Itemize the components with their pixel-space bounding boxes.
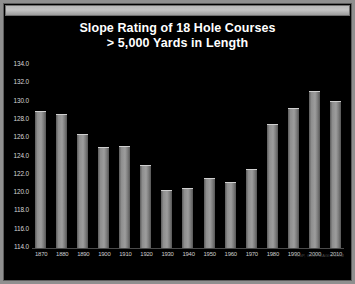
chart-subtitle: > 5,000 Yards in Length	[5, 36, 350, 51]
bar-column[interactable]	[77, 65, 88, 248]
y-axis-labels: 134.0132.0130.0128.0126.0124.0122.0120.0…	[5, 63, 31, 248]
x-tick-label: 1870	[35, 251, 46, 263]
chart-window: Slope Rating of 18 Hole Courses > 5,000 …	[0, 0, 355, 284]
x-tick-label: 1890	[77, 251, 88, 263]
y-tick-label: 132.0	[14, 78, 30, 85]
bar-column[interactable]	[140, 65, 151, 248]
bar-column[interactable]	[225, 65, 236, 248]
x-tick-label: 1970	[246, 251, 257, 263]
bar[interactable]	[98, 147, 109, 248]
x-tick-label: 1910	[119, 251, 130, 263]
bar[interactable]	[140, 165, 151, 248]
y-tick-label: 124.0	[14, 151, 30, 158]
bar[interactable]	[204, 178, 215, 248]
x-tick-label: 1930	[161, 251, 172, 263]
bar-column[interactable]	[267, 65, 278, 248]
y-tick-label: 134.0	[14, 60, 30, 67]
x-tick-label: 1940	[182, 251, 193, 263]
bar-column[interactable]	[309, 65, 320, 248]
x-tick-label: 1980	[267, 251, 278, 263]
bar[interactable]	[309, 91, 320, 248]
bar-column[interactable]	[330, 65, 341, 248]
bar[interactable]	[119, 146, 130, 248]
bar-column[interactable]	[182, 65, 193, 248]
bar-column[interactable]	[119, 65, 130, 248]
x-tick-label: 1880	[56, 251, 67, 263]
bar-column[interactable]	[288, 65, 299, 248]
y-tick-label: 130.0	[14, 96, 30, 103]
x-axis-line	[32, 248, 344, 249]
y-tick-label: 126.0	[14, 133, 30, 140]
y-tick-label: 116.0	[14, 224, 29, 231]
bar[interactable]	[267, 124, 278, 248]
watermark-label: RGP, GOLFMAGIC.COM	[296, 253, 344, 258]
chart-title-line1: Slope Rating of 18 Hole Courses	[79, 21, 275, 35]
bar[interactable]	[330, 101, 341, 248]
bar-column[interactable]	[35, 65, 46, 248]
x-tick-label: 1960	[225, 251, 236, 263]
bar[interactable]	[56, 114, 67, 248]
x-tick-label: 1920	[140, 251, 151, 263]
bar[interactable]	[225, 182, 236, 248]
bar-column[interactable]	[56, 65, 67, 248]
bar[interactable]	[288, 108, 299, 248]
bar[interactable]	[161, 190, 172, 248]
bar-column[interactable]	[204, 65, 215, 248]
bar-column[interactable]	[161, 65, 172, 248]
x-tick-label: 1950	[204, 251, 215, 263]
y-tick-label: 114.0	[14, 243, 29, 250]
y-tick-label: 122.0	[14, 169, 30, 176]
chart-title: Slope Rating of 18 Hole Courses > 5,000 …	[5, 21, 350, 51]
bar[interactable]	[246, 169, 257, 248]
y-tick-label: 118.0	[14, 206, 29, 213]
window-titlebar[interactable]	[5, 5, 350, 16]
bar-column[interactable]	[98, 65, 109, 248]
plot-area	[32, 65, 344, 248]
bar[interactable]	[182, 188, 193, 248]
bar[interactable]	[77, 134, 88, 248]
x-tick-label: 1900	[98, 251, 109, 263]
y-tick-label: 128.0	[14, 114, 30, 121]
chart-canvas: Slope Rating of 18 Hole Courses > 5,000 …	[5, 17, 350, 279]
bar-column[interactable]	[246, 65, 257, 248]
bar[interactable]	[35, 111, 46, 248]
bar-series	[32, 65, 344, 248]
y-tick-label: 120.0	[14, 188, 30, 195]
